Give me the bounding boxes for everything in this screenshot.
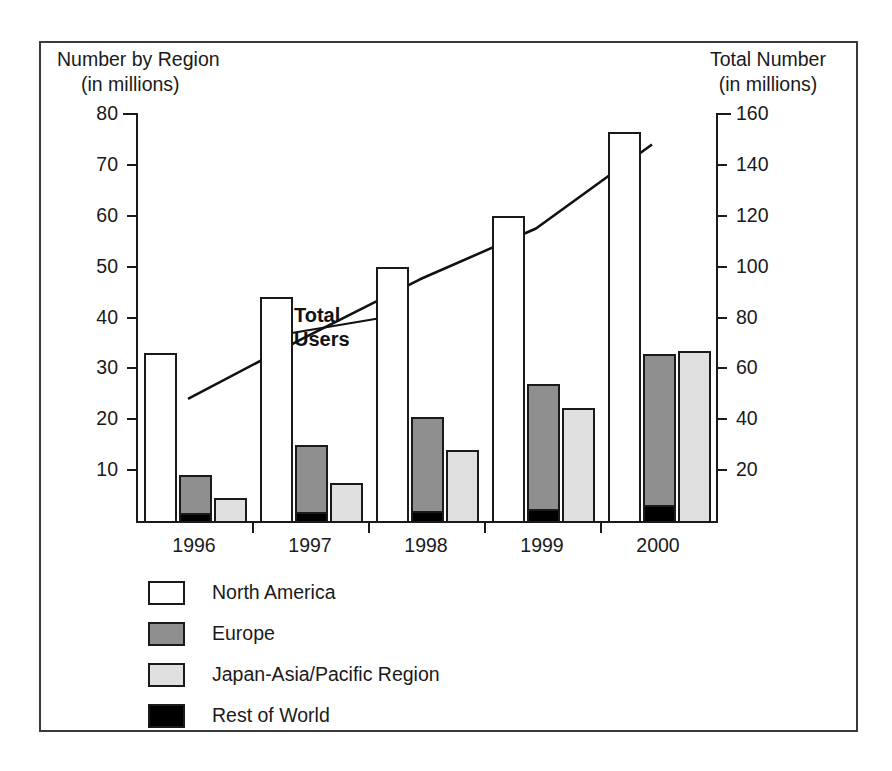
- right-axis-title: Total Number (in millions): [710, 47, 826, 97]
- chart-legend: North AmericaEuropeJapan-Asia/Pacific Re…: [148, 572, 440, 736]
- annotation-line2: Users: [294, 327, 350, 351]
- legend-swatch-rest-of-world: [148, 704, 185, 728]
- legend-label: Rest of World: [212, 704, 330, 727]
- legend-swatch-europe: [148, 622, 185, 646]
- legend-item: Rest of World: [148, 695, 440, 736]
- legend-item: North America: [148, 572, 440, 613]
- legend-swatch-north-america: [148, 581, 185, 605]
- legend-item: Europe: [148, 613, 440, 654]
- right-axis-title-line2: (in millions): [710, 72, 826, 97]
- total-users-annotation: Total Users: [294, 303, 350, 352]
- legend-label: Europe: [212, 622, 275, 645]
- left-axis-title-line1: Number by Region: [57, 48, 220, 70]
- legend-item: Japan-Asia/Pacific Region: [148, 654, 440, 695]
- legend-label: Japan-Asia/Pacific Region: [212, 663, 440, 686]
- legend-swatch-japan-asia-pacific-region: [148, 663, 185, 687]
- left-axis-title: Number by Region (in millions): [57, 47, 220, 97]
- annotation-line1: Total: [294, 303, 350, 327]
- left-axis-title-line2: (in millions): [57, 72, 220, 97]
- chart-figure: Number by Region (in millions) Total Num…: [0, 0, 892, 771]
- legend-label: North America: [212, 581, 336, 604]
- right-axis-title-line1: Total Number: [710, 47, 826, 72]
